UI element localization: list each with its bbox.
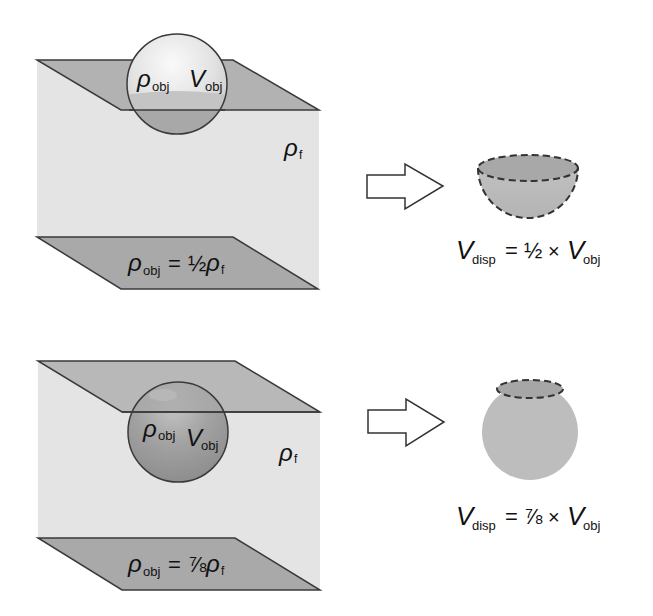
formula-equals: =	[505, 238, 518, 263]
sphere-density-subscript: obj	[158, 428, 175, 443]
right-arrow-icon	[367, 164, 443, 209]
relation-lhs-rho: ρ	[127, 249, 142, 276]
sphere-density-symbol: ρ	[136, 65, 151, 92]
displaced-volume-sphere-cap-removed	[482, 380, 578, 480]
sphere-volume-subscript: obj	[205, 79, 222, 94]
sphere-density-symbol: ρ	[142, 415, 157, 442]
panel-half-density: ρ obj V obj ρ f ρ obj = ½ ρ f V disp = ½…	[37, 34, 600, 289]
formula-v-obj-subscript: obj	[583, 252, 600, 267]
formula-v-disp-subscript: disp	[472, 518, 496, 533]
relation-fraction: ½	[188, 251, 206, 276]
formula-fraction: ⅞	[524, 504, 543, 529]
fluid-density-symbol: ρ	[278, 439, 293, 466]
relation-lhs-subscript: obj	[143, 263, 160, 278]
displaced-volume-hemisphere	[478, 155, 578, 218]
formula-times: ×	[548, 240, 560, 262]
relation-equals: =	[168, 251, 181, 276]
sphere-volume-subscript: obj	[201, 438, 218, 453]
relation-rhs-rho: ρ	[205, 249, 220, 276]
formula-fraction: ½	[524, 238, 542, 263]
right-arrow-icon	[368, 399, 444, 446]
relation-lhs-rho: ρ	[127, 550, 142, 577]
panel-seven-eighths-density: ρ obj V obj ρ f ρ obj = ⅞ ρ f V disp = ⅞…	[38, 361, 600, 590]
formula-times: ×	[548, 506, 560, 528]
fluid-density-symbol: ρ	[283, 134, 298, 161]
formula-v-disp-subscript: disp	[472, 252, 496, 267]
sphere-density-subscript: obj	[152, 79, 169, 94]
formula-equals: =	[505, 504, 518, 529]
relation-equals: =	[168, 552, 181, 577]
relation-rhs-rho: ρ	[205, 550, 220, 577]
formula-v-obj-subscript: obj	[583, 518, 600, 533]
relation-fraction: ⅞	[188, 552, 207, 577]
relation-lhs-subscript: obj	[143, 564, 160, 579]
buoyancy-diagram: ρ obj V obj ρ f ρ obj = ½ ρ f V disp = ½…	[0, 0, 653, 616]
